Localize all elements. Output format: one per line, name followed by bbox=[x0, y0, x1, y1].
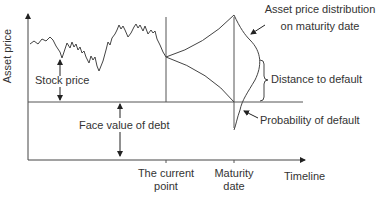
distance-to-default-label: Distance to default bbox=[271, 73, 362, 86]
maturity-date-label-line2: date bbox=[204, 180, 264, 193]
x-axis-label: Timeline bbox=[284, 170, 325, 183]
probability-of-default-label: Probability of default bbox=[260, 114, 360, 127]
stock-price-path bbox=[30, 24, 166, 71]
distribution-label-line1: Asset price distribution bbox=[256, 3, 384, 16]
distribution-label-line2: on maturity date bbox=[256, 20, 384, 33]
distribution-cone-upper bbox=[166, 15, 234, 57]
maturity-date-label-line1: Maturity bbox=[204, 167, 264, 180]
current-point-label-line1: The current bbox=[131, 167, 201, 180]
y-axis-label: Asset price bbox=[1, 26, 13, 86]
stock-price-label: Stock price bbox=[35, 74, 89, 87]
current-point-label-line2: point bbox=[131, 180, 201, 193]
probability-pointer-arrow bbox=[244, 111, 258, 118]
face-value-label: Face value of debt bbox=[79, 119, 170, 132]
distribution-cone-lower bbox=[166, 57, 234, 102]
distance-to-default-brace bbox=[260, 60, 268, 101]
